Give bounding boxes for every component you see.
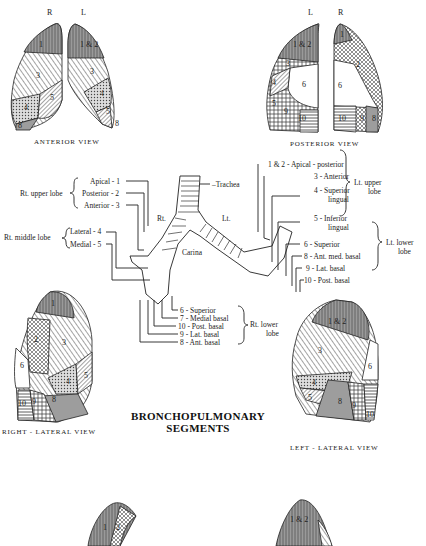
svg-text:3: 3 bbox=[90, 67, 94, 76]
svg-text:10: 10 bbox=[366, 410, 374, 419]
anterior-side-l: L bbox=[81, 8, 86, 17]
svg-text:2: 2 bbox=[116, 523, 120, 532]
svg-text:1: 1 bbox=[103, 523, 107, 532]
seg-lt-lat-basal-9: 9 - Lat. basal bbox=[306, 264, 345, 273]
seg-label: 1 bbox=[39, 40, 43, 49]
svg-text:4: 4 bbox=[66, 377, 70, 386]
seg-anterior-3: Anterior - 3 bbox=[84, 201, 119, 210]
svg-text:8: 8 bbox=[338, 397, 342, 406]
svg-text:8: 8 bbox=[18, 121, 22, 130]
seg-apical-1: Apical - 1 bbox=[90, 177, 120, 186]
title-line-1: BRONCHOPULMONARY bbox=[126, 410, 270, 422]
svg-text:4: 4 bbox=[100, 89, 104, 98]
seg-lt-apical-posterior-1-2: 1 & 2 - Apical - posterior bbox=[268, 160, 344, 169]
diagram-title: BRONCHOPULMONARY SEGMENTS bbox=[126, 410, 270, 434]
svg-text:1 & 2: 1 & 2 bbox=[328, 317, 346, 326]
svg-text:3: 3 bbox=[286, 59, 290, 68]
svg-text:6: 6 bbox=[368, 362, 372, 371]
svg-text:6: 6 bbox=[20, 361, 24, 370]
svg-text:1: 1 bbox=[51, 299, 55, 308]
bronchial-tree bbox=[130, 176, 292, 304]
rt-upper-lobe-label: Rt. upper lobe bbox=[20, 189, 63, 198]
svg-text:3: 3 bbox=[318, 346, 322, 355]
seg-lt-anterior-3: 3 - Anterior bbox=[314, 172, 349, 181]
svg-text:4: 4 bbox=[24, 103, 28, 112]
diagram-canvas: 1 1 & 2 33 44 55 88 1 & 21 32 4 66 59 10… bbox=[0, 0, 426, 546]
rt-label: Rt. bbox=[157, 214, 166, 223]
rt-middle-lobe-label: Rt. middle lobe bbox=[4, 233, 50, 242]
svg-text:5: 5 bbox=[272, 99, 276, 108]
svg-text:8: 8 bbox=[115, 119, 119, 128]
svg-text:9: 9 bbox=[32, 397, 36, 406]
svg-text:10: 10 bbox=[338, 114, 346, 123]
svg-text:9: 9 bbox=[284, 107, 288, 116]
posterior-side-l: L bbox=[308, 8, 313, 17]
svg-text:3: 3 bbox=[36, 71, 40, 80]
seg-lt-post-basal-10: 10 - Post. basal bbox=[304, 276, 350, 285]
left-lateral-view-label: LEFT - LATERAL VIEW bbox=[290, 444, 378, 452]
seg-lt-superior-6: 6 - Superior bbox=[304, 240, 340, 249]
seg-lateral-4: Lateral - 4 bbox=[70, 227, 101, 236]
lt-label: Lt. bbox=[222, 214, 231, 223]
carina-label: Carina bbox=[182, 248, 202, 257]
seg-lt-superior-lingual-4: 4 - Superior lingual bbox=[314, 186, 350, 204]
seg-rt-ant-basal-8: 8 - Ant. basal bbox=[180, 338, 220, 347]
lt-upper-lobe-label: Lt. upper lobe bbox=[354, 178, 382, 196]
svg-text:10: 10 bbox=[298, 114, 306, 123]
svg-text:3: 3 bbox=[62, 338, 66, 347]
title-line-2: SEGMENTS bbox=[126, 422, 270, 434]
svg-text:1 & 2: 1 & 2 bbox=[293, 40, 311, 49]
svg-text:5: 5 bbox=[84, 371, 88, 380]
posterior-side-r: R bbox=[338, 8, 343, 17]
posterior-view-label: POSTERIOR VIEW bbox=[290, 140, 359, 148]
seg-label: 1 & 2 bbox=[80, 40, 98, 49]
lt-lower-lobe-label: Lt. lower lobe bbox=[386, 238, 414, 256]
trachea-label: –Trachea bbox=[212, 180, 240, 189]
right-lateral-view-label: RIGHT - LATERAL VIEW bbox=[2, 428, 96, 436]
svg-text:2: 2 bbox=[356, 60, 360, 69]
bottom-left-lung bbox=[88, 503, 136, 546]
seg-lt-ant-med-basal-8: 8 - Ant. med. basal bbox=[304, 252, 361, 261]
svg-text:4: 4 bbox=[312, 378, 316, 387]
svg-text:4: 4 bbox=[272, 78, 276, 87]
svg-text:8: 8 bbox=[52, 395, 56, 404]
rt-lower-lobe-label: Rt. lower lobe bbox=[250, 320, 279, 338]
svg-text:5: 5 bbox=[106, 107, 110, 116]
svg-text:5: 5 bbox=[308, 393, 312, 402]
svg-text:2: 2 bbox=[34, 335, 38, 344]
seg-posterior-2: Posterior - 2 bbox=[82, 189, 119, 198]
svg-text:5: 5 bbox=[50, 93, 54, 102]
svg-text:1 & 2: 1 & 2 bbox=[290, 515, 308, 524]
seg-lt-inferior-lingual-5: 5 - Inferior lingual bbox=[314, 214, 349, 232]
anterior-side-r: R bbox=[47, 8, 52, 17]
svg-text:1: 1 bbox=[340, 30, 344, 39]
seg-medial-5: Medial - 5 bbox=[70, 240, 101, 249]
svg-text:6: 6 bbox=[338, 81, 342, 90]
svg-text:9: 9 bbox=[360, 114, 364, 123]
anterior-view-label: ANTERIOR VIEW bbox=[34, 138, 100, 146]
svg-text:6: 6 bbox=[302, 80, 306, 89]
svg-text:8: 8 bbox=[372, 114, 376, 123]
svg-text:10: 10 bbox=[18, 399, 26, 408]
svg-text:9: 9 bbox=[352, 401, 356, 410]
